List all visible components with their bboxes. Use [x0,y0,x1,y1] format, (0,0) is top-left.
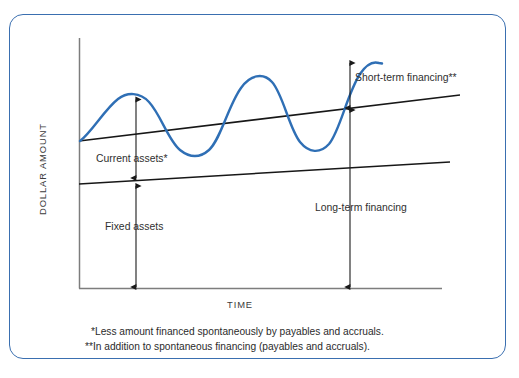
footnote-double-asterisk: **In addition to spontaneous financing (… [85,341,370,352]
figure-page: Current assets* Fixed assets Short-term … [0,0,519,378]
short-term-financing-label: Short-term financing** [355,72,457,83]
current-assets-label: Current assets* [96,153,168,164]
y-axis-title: DOLLAR AMOUNT [37,123,48,215]
long-term-financing-label: Long-term financing [315,202,407,213]
fixed-assets-line [79,162,450,184]
long-term-financing-annotation: Long-term financing [315,110,407,287]
chart-canvas: Current assets* Fixed assets Short-term … [0,0,519,378]
fixed-assets-annotation: Fixed assets [105,186,163,287]
fixed-assets-label: Fixed assets [105,221,163,232]
footnote-single-asterisk: *Less amount financed spontaneously by p… [91,326,384,337]
x-axis-title: TIME [227,299,253,310]
